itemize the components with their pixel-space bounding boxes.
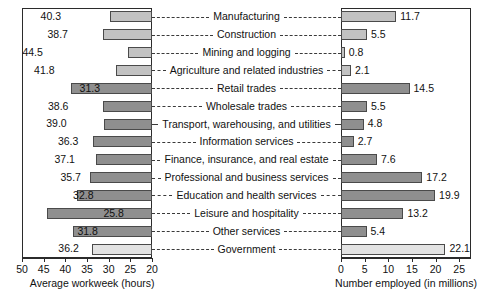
value-label-right: 17.2	[426, 171, 446, 184]
axis-tick	[44, 258, 45, 262]
right-value-labels: 11.75.50.82.114.55.54.82.77.617.219.913.…	[341, 8, 491, 258]
category-labels-column: ManufacturingConstructionMining and logg…	[152, 8, 341, 258]
value-label-right: 11.7	[400, 10, 420, 23]
value-label-right: 2.7	[358, 135, 373, 148]
category-label: Finance, insurance, and real estate	[160, 153, 332, 166]
value-label-left: 38.7	[28, 28, 68, 41]
category-label: Education and health services	[172, 189, 320, 202]
axis-tick-label: 15	[406, 263, 418, 276]
leader-line-right	[327, 70, 341, 71]
category-label: Construction	[213, 28, 280, 41]
axis-tick	[459, 258, 460, 262]
value-label-right: 4.8	[368, 117, 383, 130]
leader-line-left	[152, 88, 213, 89]
category-row: Other services	[152, 222, 341, 240]
category-row: Finance, insurance, and real estate	[152, 151, 341, 169]
value-label-left: 37.1	[35, 153, 75, 166]
axis-tick	[365, 258, 366, 262]
leader-line-right	[297, 142, 341, 143]
category-row: Education and health services	[152, 187, 341, 205]
value-label-right: 5.4	[371, 225, 386, 238]
value-label-left: 25.8	[84, 207, 124, 220]
category-row: Wholesale trades	[152, 97, 341, 115]
value-label-left: 39.0	[27, 117, 67, 130]
category-label: Leisure and hospitality	[190, 207, 302, 220]
category-label: Retail trades	[213, 82, 280, 95]
category-row: Construction	[152, 26, 341, 44]
value-label-right: 2.1	[355, 64, 370, 77]
category-row: Agriculture and related industries	[152, 62, 341, 80]
leader-line-right	[303, 213, 341, 214]
category-label: Wholesale trades	[202, 100, 291, 113]
category-label: Mining and logging	[198, 46, 294, 59]
axis-tick	[341, 258, 342, 262]
leader-line-left	[152, 213, 190, 214]
leader-line-left	[152, 142, 196, 143]
leader-line-right	[280, 35, 341, 36]
axis-tick-label: 30	[103, 263, 115, 276]
leader-line-right	[295, 53, 341, 54]
category-row: Leisure and hospitality	[152, 204, 341, 222]
category-row: Information services	[152, 133, 341, 151]
category-label: Transport, warehousing, and utilities	[158, 118, 334, 131]
leader-line-left	[152, 249, 214, 250]
leader-line-right	[291, 106, 341, 107]
axis-tick-label: 50	[16, 263, 28, 276]
dual-bar-chart-figure: 40.338.744.541.831.338.639.036.337.135.7…	[0, 0, 491, 295]
category-label: Manufacturing	[209, 10, 284, 23]
axis-tick-label: 20	[146, 263, 158, 276]
value-label-left: 36.2	[39, 242, 79, 255]
value-label-right: 5.5	[371, 28, 386, 41]
leader-line-right	[279, 249, 341, 250]
value-label-right: 7.6	[381, 153, 396, 166]
category-row: Transport, warehousing, and utilities	[152, 115, 341, 133]
leader-line-left	[152, 178, 161, 179]
category-label: Government	[214, 243, 280, 256]
value-label-right: 5.5	[371, 100, 386, 113]
axis-tick-label: 35	[81, 263, 93, 276]
axis-tick	[87, 258, 88, 262]
leader-line-left	[152, 17, 209, 18]
category-label: Professional and business services	[161, 171, 333, 184]
category-row: Professional and business services	[152, 169, 341, 187]
right-axis-title: Number employed (in millions)	[335, 277, 477, 290]
category-row: Manufacturing	[152, 8, 341, 26]
value-label-right: 22.1	[449, 242, 469, 255]
leader-line-left	[152, 70, 166, 71]
axis-tick-label: 25	[453, 263, 465, 276]
axis-tick	[130, 258, 131, 262]
left-value-labels: 40.338.744.541.831.338.639.036.337.135.7…	[0, 8, 152, 258]
axis-tick-label: 20	[430, 263, 442, 276]
axis-tick-label: 0	[338, 263, 344, 276]
axis-tick	[65, 258, 66, 262]
leader-line-right	[321, 195, 341, 196]
axis-tick-label: 25	[124, 263, 136, 276]
value-label-left: 41.8	[15, 64, 55, 77]
value-label-left: 38.6	[28, 100, 68, 113]
value-label-right: 14.5	[414, 82, 434, 95]
value-label-right: 19.9	[439, 189, 459, 202]
axis-tick	[152, 258, 153, 262]
value-label-left: 40.3	[21, 10, 61, 23]
leader-line-left	[152, 53, 198, 54]
value-label-right: 13.2	[407, 207, 427, 220]
right-x-axis: Number employed (in millions) 0510152025	[341, 258, 471, 288]
value-label-left: 32.8	[54, 189, 94, 202]
axis-tick-label: 40	[59, 263, 71, 276]
leader-line-left	[152, 35, 213, 36]
right-axis-line	[341, 258, 471, 259]
axis-tick	[22, 258, 23, 262]
axis-tick	[388, 258, 389, 262]
leader-line-left	[152, 106, 202, 107]
leader-line-left	[152, 160, 160, 161]
category-label: Information services	[196, 135, 298, 148]
category-row: Retail trades	[152, 79, 341, 97]
leader-line-left	[152, 231, 209, 232]
category-label: Agriculture and related industries	[166, 64, 328, 77]
category-label: Other services	[209, 225, 285, 238]
axis-tick-label: 5	[362, 263, 368, 276]
leader-line-right	[284, 231, 341, 232]
left-axis-title: Average workweek (hours)	[30, 277, 155, 290]
leader-line-right	[333, 160, 341, 161]
axis-tick-label: 10	[382, 263, 394, 276]
